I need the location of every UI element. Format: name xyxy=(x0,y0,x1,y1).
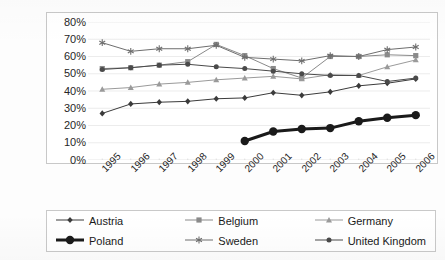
series-line xyxy=(102,43,416,61)
marker-circle-large xyxy=(355,117,363,125)
series-poland xyxy=(241,111,420,145)
marker-circle-large xyxy=(298,125,306,133)
chart-legend: AustriaBelgiumGermanyPolandSwedenUnited … xyxy=(46,210,436,252)
series-sweden xyxy=(99,39,418,64)
marker-circle-large xyxy=(66,236,74,244)
legend-label: Austria xyxy=(89,215,123,227)
marker-circle-large xyxy=(326,124,334,132)
series-belgium xyxy=(100,42,419,81)
marker-diamond xyxy=(271,90,276,96)
marker-diamond xyxy=(356,83,361,89)
marker-circle xyxy=(185,62,190,67)
legend-label: Sweden xyxy=(218,235,258,247)
y-axis-tick-label: 60% xyxy=(64,51,86,62)
legend-item-sweden[interactable]: Sweden xyxy=(176,234,305,248)
chart-screenshot: 0%10%20%30%40%50%60%70%80% 1995199619971… xyxy=(0,0,445,260)
y-axis-labels: 0%10%20%30%40%50%60%70%80% xyxy=(48,12,88,164)
marker-circle xyxy=(356,73,361,78)
legend-item-belgium[interactable]: Belgium xyxy=(176,214,305,228)
marker-circle-large xyxy=(383,114,391,122)
marker-circle xyxy=(299,71,304,76)
legend-marker-icon xyxy=(314,214,344,228)
legend-label: Belgium xyxy=(218,215,258,227)
x-axis-labels: 1995199619971998199920002001200220032004… xyxy=(46,164,438,206)
series-austria xyxy=(100,76,419,117)
legend-item-germany[interactable]: Germany xyxy=(306,214,435,228)
legend-marker-icon xyxy=(314,234,344,248)
marker-circle xyxy=(413,76,418,81)
series-united-kingdom xyxy=(100,62,419,84)
y-axis-tick-label: 20% xyxy=(64,120,86,131)
legend-item-austria[interactable]: Austria xyxy=(47,214,176,228)
legend-marker-icon xyxy=(184,214,214,228)
marker-diamond xyxy=(185,98,190,104)
y-axis-tick-label: 70% xyxy=(64,34,86,45)
y-axis-tick-label: 40% xyxy=(64,86,86,97)
marker-diamond xyxy=(299,92,304,98)
marker-circle xyxy=(128,65,133,70)
marker-diamond xyxy=(100,110,105,116)
line-chart-svg xyxy=(88,22,430,160)
marker-circle-large xyxy=(241,137,249,145)
marker-diamond xyxy=(328,89,333,95)
legend-label: Germany xyxy=(348,215,393,227)
y-axis-tick-label: 50% xyxy=(64,68,86,79)
legend-label: Poland xyxy=(89,235,123,247)
y-axis-tick-label: 10% xyxy=(64,137,86,148)
marker-circle xyxy=(271,69,276,74)
marker-circle-large xyxy=(412,111,420,119)
marker-circle xyxy=(100,67,105,72)
marker-circle-large xyxy=(269,127,277,135)
marker-diamond xyxy=(242,95,247,101)
y-axis-tick-label: 80% xyxy=(64,17,86,28)
marker-circle xyxy=(214,64,219,69)
marker-square xyxy=(197,217,202,222)
legend-marker-icon xyxy=(55,214,85,228)
marker-circle xyxy=(242,66,247,71)
marker-diamond xyxy=(214,96,219,102)
marker-circle xyxy=(385,79,390,84)
chart-plot-area xyxy=(88,22,430,160)
legend-marker-icon xyxy=(184,234,214,248)
legend-item-poland[interactable]: Poland xyxy=(47,234,176,248)
marker-diamond xyxy=(67,217,72,223)
y-axis-tick-label: 30% xyxy=(64,103,86,114)
legend-item-united-kingdom[interactable]: United Kingdom xyxy=(306,234,435,248)
marker-circle xyxy=(157,63,162,68)
marker-circle xyxy=(328,73,333,78)
legend-label: United Kingdom xyxy=(348,235,426,247)
marker-circle xyxy=(326,238,331,243)
marker-diamond xyxy=(157,99,162,105)
marker-diamond xyxy=(128,101,133,107)
legend-marker-icon xyxy=(55,234,85,248)
